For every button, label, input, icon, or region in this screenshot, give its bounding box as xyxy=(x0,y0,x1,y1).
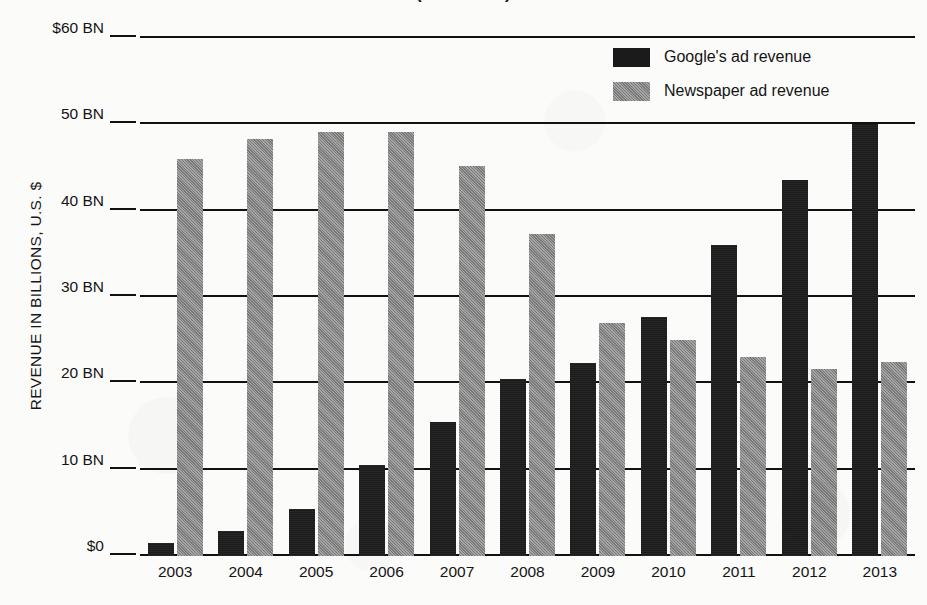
x-tick-label-2008: 2008 xyxy=(510,563,544,581)
y-tick-mark xyxy=(110,121,136,123)
x-tick-label-2010: 2010 xyxy=(651,563,685,581)
x-tick-label-2007: 2007 xyxy=(440,563,474,581)
bar-newspaper-2004 xyxy=(247,139,273,556)
bar-newspaper-2007 xyxy=(459,166,485,556)
y-tick-mark xyxy=(110,294,136,296)
chart-title: (2003-2013) xyxy=(0,0,927,4)
x-tick-label-2006: 2006 xyxy=(369,563,403,581)
y-tick-label: 10 BN xyxy=(61,451,104,469)
legend-label: Newspaper ad revenue xyxy=(664,82,829,100)
legend-item-news: Newspaper ad revenue xyxy=(613,74,913,108)
y-tick-mark xyxy=(110,35,136,37)
bar-newspaper-2009 xyxy=(599,323,625,556)
y-tick-label: 20 BN xyxy=(61,364,104,382)
plot-area xyxy=(140,38,915,556)
x-tick-label-2003: 2003 xyxy=(158,563,192,581)
bar-google-2006 xyxy=(359,465,385,556)
y-tick-label: 50 BN xyxy=(61,105,104,123)
y-tick-label: $0 xyxy=(87,537,104,555)
legend-label: Google's ad revenue xyxy=(664,48,811,66)
x-tick-label-2005: 2005 xyxy=(299,563,333,581)
bar-newspaper-2011 xyxy=(740,357,766,556)
bar-google-2011 xyxy=(711,245,737,556)
bar-google-2009 xyxy=(570,363,596,556)
bar-newspaper-2005 xyxy=(318,132,344,556)
gridline-60 xyxy=(140,36,915,38)
x-tick-label-2011: 2011 xyxy=(722,563,755,581)
y-axis-tick-labels: $010 BN20 BN30 BN40 BN50 BN$60 BN xyxy=(0,38,140,556)
bar-google-2008 xyxy=(500,379,526,556)
bar-google-2010 xyxy=(641,317,667,556)
bar-google-2005 xyxy=(289,509,315,556)
bar-newspaper-2012 xyxy=(811,369,837,556)
bar-google-2003 xyxy=(148,543,174,556)
bar-google-2013 xyxy=(852,124,878,556)
x-axis-tick-labels: 2003200420052006200720082009201020112012… xyxy=(140,563,915,593)
bar-newspaper-2013 xyxy=(881,362,907,556)
legend-item-google: Google's ad revenue xyxy=(613,40,913,74)
legend-swatch-news-icon xyxy=(613,82,650,101)
y-tick-label: 30 BN xyxy=(61,278,104,296)
y-tick-label: $60 BN xyxy=(52,19,104,37)
bar-newspaper-2010 xyxy=(670,340,696,556)
y-tick-mark xyxy=(110,553,136,555)
bar-google-2004 xyxy=(218,531,244,556)
gridline-50 xyxy=(140,122,915,124)
y-tick-mark xyxy=(110,208,136,210)
bar-google-2012 xyxy=(782,180,808,556)
y-tick-mark xyxy=(110,467,136,469)
x-tick-label-2012: 2012 xyxy=(792,563,826,581)
y-tick-label: 40 BN xyxy=(61,192,104,210)
legend-swatch-google-icon xyxy=(613,48,650,67)
bar-newspaper-2008 xyxy=(529,234,555,556)
bar-google-2007 xyxy=(430,422,456,556)
x-tick-label-2004: 2004 xyxy=(228,563,262,581)
y-tick-mark xyxy=(110,380,136,382)
x-tick-label-2009: 2009 xyxy=(581,563,615,581)
bar-newspaper-2003 xyxy=(177,159,203,556)
bar-newspaper-2006 xyxy=(388,132,414,556)
chart-legend: Google's ad revenueNewspaper ad revenue xyxy=(613,40,913,108)
x-tick-label-2013: 2013 xyxy=(863,563,897,581)
